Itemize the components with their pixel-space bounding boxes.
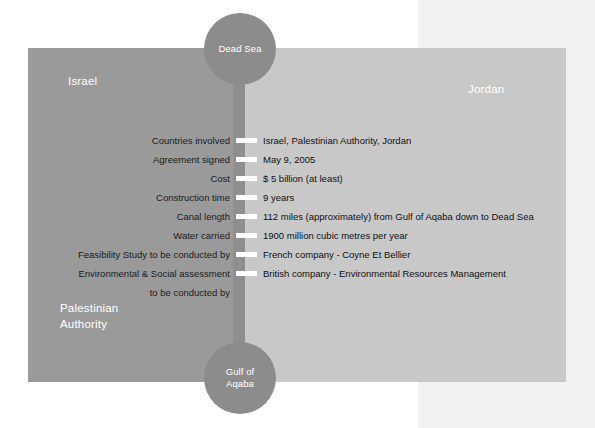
fact-value: May 9, 2005 (263, 154, 315, 166)
fact-connector-bar-empty (236, 290, 257, 295)
fact-row: Countries involved Israel, Palestinian A… (55, 131, 555, 150)
fact-value: 9 years (263, 192, 294, 204)
water-body-dead-sea: Dead Sea (204, 13, 276, 85)
fact-row-continuation: to be conducted by (55, 283, 555, 302)
fact-value: British company - Environmental Resource… (263, 268, 506, 280)
dead-sea-label: Dead Sea (218, 43, 261, 55)
fact-connector-bar (236, 176, 257, 181)
fact-label: Countries involved (55, 135, 230, 147)
fact-label-continuation: to be conducted by (55, 287, 230, 299)
water-body-gulf-of-aqaba: Gulf of Aqaba (204, 342, 276, 414)
fact-connector-bar (236, 195, 257, 200)
palestinian-authority-label-line2: Authority (60, 316, 170, 332)
fact-label: Agreement signed (55, 154, 230, 166)
fact-label: Cost (55, 173, 230, 185)
fact-row: Feasibility Study to be conducted by Fre… (55, 245, 555, 264)
fact-row: Agreement signed May 9, 2005 (55, 150, 555, 169)
infographic-canvas: Dead Sea Gulf of Aqaba Israel Jordan Pal… (0, 0, 595, 428)
fact-row: Canal length 112 miles (approximately) f… (55, 207, 555, 226)
fact-row: Environmental & Social assessment Britis… (55, 264, 555, 283)
fact-value: French company - Coyne Et Bellier (263, 249, 410, 261)
fact-label: Environmental & Social assessment (55, 268, 230, 280)
gulf-of-aqaba-label-line2: Aqaba (226, 378, 255, 390)
fact-connector-bar (236, 157, 257, 162)
gulf-of-aqaba-label-line1: Gulf of (226, 366, 255, 378)
fact-row: Water carried 1900 million cubic metres … (55, 226, 555, 245)
fact-connector-bar (236, 214, 257, 219)
country-label-palestinian-authority: Palestinian Authority (60, 300, 170, 332)
fact-value: 112 miles (approximately) from Gulf of A… (263, 211, 534, 223)
fact-value: Israel, Palestinian Authority, Jordan (263, 135, 411, 147)
country-label-israel: Israel (68, 73, 97, 89)
fact-value: 1900 million cubic metres per year (263, 230, 408, 242)
fact-label: Water carried (55, 230, 230, 242)
fact-connector-bar (236, 252, 257, 257)
fact-value: $ 5 billion (at least) (263, 173, 343, 185)
fact-label: Construction time (55, 192, 230, 204)
fact-label: Feasibility Study to be conducted by (55, 249, 230, 261)
palestinian-authority-label-line1: Palestinian (60, 300, 170, 316)
fact-label: Canal length (55, 211, 230, 223)
fact-table: Countries involved Israel, Palestinian A… (55, 131, 555, 302)
country-label-jordan: Jordan (468, 81, 504, 97)
fact-connector-bar (236, 271, 257, 276)
fact-row: Cost $ 5 billion (at least) (55, 169, 555, 188)
fact-connector-bar (236, 138, 257, 143)
fact-row: Construction time 9 years (55, 188, 555, 207)
fact-connector-bar (236, 233, 257, 238)
